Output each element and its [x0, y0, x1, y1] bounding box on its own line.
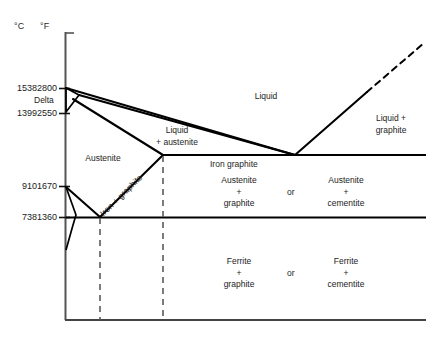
region-label-iron-graphite-band: Iron graphite [210, 159, 290, 171]
tick-label-fahrenheit-1670: 1670 [27, 181, 57, 191]
delta-phase-label: Delta [34, 95, 54, 105]
axis-header-celsius: °C [14, 21, 25, 31]
region-label-austenite: Austenite [72, 153, 134, 165]
liquidus-right-dashed-extension [367, 43, 424, 92]
region-label-ferrite-graphite: Ferrite + graphite [203, 256, 275, 291]
region-label-liquid-graphite: Liquid + graphite [360, 113, 422, 136]
axis-header-fahrenheit: °F [40, 21, 50, 31]
tick-label-fahrenheit-2550: 2550 [27, 108, 57, 118]
phase-diagram: °C °F 1538 1399 910 738 2800 2550 1670 1… [0, 0, 435, 339]
region-label-liquid: Liquid [236, 91, 296, 103]
liquidus-right-dashed-line [295, 92, 367, 155]
region-label-ferrite-cementite: Ferrite + cementite [310, 256, 382, 291]
region-label-or-upper: or [287, 187, 295, 197]
tick-label-fahrenheit-1360: 1360 [27, 212, 57, 222]
region-label-austenite-graphite: Austenite + graphite [203, 175, 275, 210]
region-label-or-lower: or [287, 268, 295, 278]
region-label-austenite-cementite: Austenite + cementite [310, 175, 382, 210]
region-label-liquid-austenite: Liquid + austenite [141, 125, 213, 148]
tick-label-fahrenheit-2800: 2800 [27, 83, 57, 93]
